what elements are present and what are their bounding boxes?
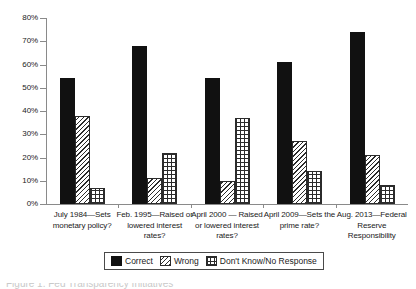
- bar-chart: 0%10%20%30%40%50%60%70%80% July 1984—Set…: [0, 0, 416, 289]
- cropped-footer-caption: Figure 1. Fed Transparency Initiatives: [0, 283, 416, 289]
- legend-swatch-dk: [206, 256, 217, 266]
- y-axis-tick: [40, 204, 46, 205]
- bar-group: [336, 18, 408, 204]
- bar-group-bars: [336, 18, 408, 204]
- bar-dk: [235, 118, 250, 204]
- y-axis-tick-label: 60%: [2, 61, 38, 69]
- bar-wrong: [292, 141, 307, 204]
- legend-item: Don't Know/No Response: [206, 256, 317, 266]
- x-axis-category-label: July 1984—Sets monetary policy?: [43, 210, 121, 231]
- bar-wrong: [75, 116, 90, 204]
- legend-swatch-wrong: [160, 256, 171, 266]
- chart-legend: CorrectWrongDon't Know/No Response: [104, 252, 324, 270]
- y-axis-tick-label: 30%: [2, 130, 38, 138]
- footer-caption-text: Figure 1. Fed Transparency Initiatives: [6, 283, 173, 289]
- y-axis-tick-label: 70%: [2, 37, 38, 45]
- y-axis-tick-label: 50%: [2, 84, 38, 92]
- x-axis-separator: [118, 204, 119, 208]
- bar-wrong: [365, 155, 380, 204]
- legend-label: Wrong: [174, 256, 199, 266]
- bar-group: [191, 18, 263, 204]
- legend-item: Correct: [111, 256, 153, 266]
- bar-dk: [162, 153, 177, 204]
- bar-group-bars: [191, 18, 263, 204]
- bar-group: [118, 18, 190, 204]
- legend-label: Correct: [125, 256, 153, 266]
- y-axis-tick-label: 20%: [2, 154, 38, 162]
- plot-area: [46, 18, 408, 204]
- legend-item: Wrong: [160, 256, 199, 266]
- x-axis-separator: [336, 204, 337, 208]
- bar-group: [263, 18, 335, 204]
- bar-dk: [307, 171, 322, 204]
- x-axis-separator: [191, 204, 192, 208]
- bar-correct: [350, 32, 365, 204]
- bar-group-bars: [46, 18, 118, 204]
- x-axis-separator: [263, 204, 264, 208]
- bar-dk: [90, 188, 105, 204]
- bar-group-bars: [263, 18, 335, 204]
- bar-correct: [277, 62, 292, 204]
- bar-group-bars: [118, 18, 190, 204]
- bar-wrong: [147, 178, 162, 204]
- y-axis-tick-label: 40%: [2, 107, 38, 115]
- x-axis-category-label: April 2009—Sets the prime rate?: [260, 210, 338, 231]
- bar-group: [46, 18, 118, 204]
- bar-correct: [60, 78, 75, 204]
- bar-correct: [205, 78, 220, 204]
- y-axis-tick-label: 80%: [2, 14, 38, 22]
- x-axis-line: [46, 204, 408, 205]
- legend-label: Don't Know/No Response: [220, 256, 317, 266]
- bar-wrong: [220, 181, 235, 204]
- bar-dk: [380, 185, 395, 204]
- x-axis-category-label: Aug. 2013—Federal Reserve Responsibility: [333, 210, 411, 242]
- x-axis-category-label: April 2000 — Raised or lowered interest …: [188, 210, 266, 242]
- y-axis-tick-label: 0%: [2, 200, 38, 208]
- x-axis-category-label: Feb. 1995—Raised or lowered interest rat…: [115, 210, 193, 242]
- y-axis-tick-label: 10%: [2, 177, 38, 185]
- bar-correct: [132, 46, 147, 204]
- legend-swatch-correct: [111, 256, 122, 266]
